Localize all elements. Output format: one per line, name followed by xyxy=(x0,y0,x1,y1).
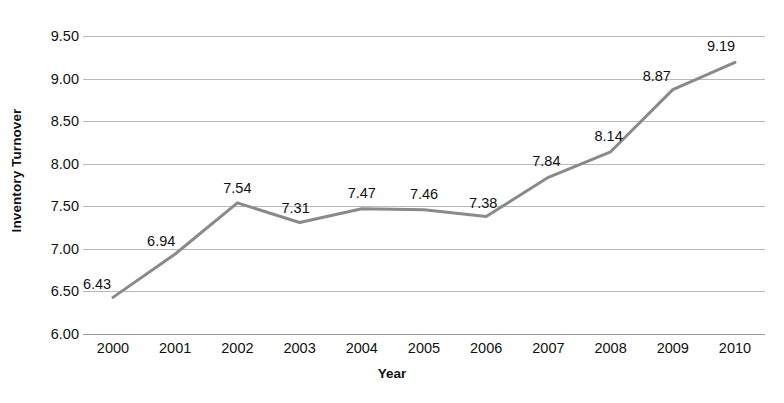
data-label: 7.31 xyxy=(281,201,309,216)
x-axis-tick-label: 2001 xyxy=(159,341,191,356)
data-label: 6.43 xyxy=(83,277,111,292)
y-axis-tick-label: 8.50 xyxy=(33,114,79,129)
data-label: 7.46 xyxy=(410,186,438,201)
data-label: 8.14 xyxy=(594,128,622,143)
gridline xyxy=(83,334,765,335)
x-axis-tick-label: 2002 xyxy=(221,341,253,356)
y-axis-tick-label: 6.50 xyxy=(33,284,79,299)
y-axis-tick-labels: 9.509.008.508.007.507.006.506.00 xyxy=(29,0,79,403)
data-label: 7.84 xyxy=(532,154,560,169)
plot-area: 6.436.947.547.317.477.467.387.848.148.87… xyxy=(83,36,765,334)
y-axis-tick-label: 7.00 xyxy=(33,242,79,257)
y-axis-tick-label: 6.00 xyxy=(33,327,79,342)
x-axis-tick-label: 2004 xyxy=(346,341,378,356)
data-label: 9.19 xyxy=(707,39,735,54)
y-axis-title: Inventory Turnover xyxy=(6,0,28,340)
data-label: 6.94 xyxy=(147,233,175,248)
x-axis-tick-label: 2006 xyxy=(470,341,502,356)
x-axis-tick-label: 2008 xyxy=(594,341,626,356)
x-axis-tick-label: 2010 xyxy=(719,341,751,356)
line-chart: Inventory Turnover 9.509.008.508.007.507… xyxy=(0,0,784,403)
x-axis-tick-labels: 2000200120022003200420052006200720082009… xyxy=(83,341,765,363)
y-axis-tick-label: 9.00 xyxy=(33,71,79,86)
data-label: 7.38 xyxy=(469,195,497,210)
y-axis-tick-label: 8.00 xyxy=(33,156,79,171)
x-axis-tick-label: 2009 xyxy=(657,341,689,356)
x-axis-tick-label: 2005 xyxy=(408,341,440,356)
y-axis-tick-label: 9.50 xyxy=(33,29,79,44)
data-label: 7.54 xyxy=(223,180,251,195)
x-axis-tick-label: 2003 xyxy=(283,341,315,356)
x-axis-tick-label: 2007 xyxy=(532,341,564,356)
data-label: 7.47 xyxy=(348,185,376,200)
x-axis-tick-label: 2000 xyxy=(97,341,129,356)
x-axis-title: Year xyxy=(0,366,784,381)
data-label: 8.87 xyxy=(643,68,671,83)
series-polyline xyxy=(113,62,735,297)
y-axis-title-text: Inventory Turnover xyxy=(10,108,25,232)
y-axis-tick-label: 7.50 xyxy=(33,199,79,214)
